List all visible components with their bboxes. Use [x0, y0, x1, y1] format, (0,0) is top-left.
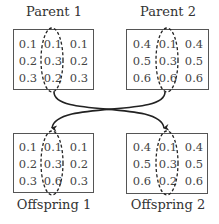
dashed-ellipse-offspring-1 [41, 131, 63, 195]
diagram-overlay [0, 0, 219, 224]
arrow-parent2-to-offspring1 [52, 92, 165, 128]
dashed-ellipse-parent-1 [41, 28, 63, 92]
dashed-ellipse-offspring-2 [156, 131, 178, 195]
dashed-ellipse-parent-2 [156, 28, 178, 92]
